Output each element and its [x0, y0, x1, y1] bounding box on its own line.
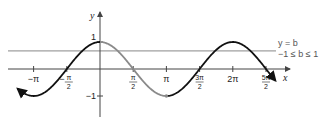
hline-label-constraint: −1 ≤ b ≤ 1	[278, 49, 318, 59]
x-tick-label: 2π	[227, 74, 238, 84]
x-tick-fraction-label: π2	[129, 74, 137, 90]
x-tick-denominator: 2	[67, 83, 71, 90]
x-tick-label: −π	[28, 74, 39, 84]
x-tick-numerator: 3π	[195, 74, 204, 81]
x-tick-numerator: 5π	[262, 74, 271, 81]
x-tick-denominator: 2	[264, 83, 268, 90]
x-tick-numerator: π	[131, 74, 136, 81]
y-tick-label: −1	[86, 91, 96, 101]
hline-label-equation: y = b	[278, 38, 298, 48]
x-tick-fraction-label: 3π2	[195, 74, 204, 90]
x-tick-denominator: 2	[131, 83, 135, 90]
y-axis-label: y	[89, 10, 95, 21]
x-tick-label: π	[163, 74, 169, 84]
y-tick-label: 1	[91, 32, 96, 42]
x-axis-label: x	[282, 72, 288, 83]
x-tick-fraction-label: 5π2	[262, 74, 271, 90]
cosine-graph: −π−π2π2π3π22π5π2 1−1 x y y = b −1 ≤ b ≤ …	[0, 0, 331, 124]
x-tick-numerator: π	[66, 74, 71, 81]
x-tick-denominator: 2	[198, 83, 202, 90]
minimum-point	[165, 94, 169, 98]
